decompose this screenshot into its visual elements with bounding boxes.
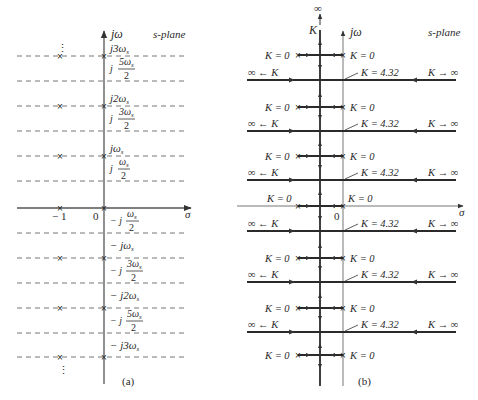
svg-text:j3ωs: j3ωs — [108, 42, 129, 56]
svg-text:×: × — [101, 303, 107, 314]
svg-text:K = 0: K = 0 — [347, 193, 373, 204]
svg-text:K → ∞: K → ∞ — [427, 319, 458, 330]
svg-text:×: × — [101, 352, 107, 363]
svg-text:×: × — [295, 350, 301, 361]
svg-text:K → ∞: K → ∞ — [427, 218, 458, 229]
panel-b: ×× ×× ×× ×× ×× ×× ×× ∞ K jω s-plane σ 0 … — [237, 2, 465, 388]
svg-text:∞ ← K: ∞ ← K — [248, 67, 279, 78]
svg-text:×: × — [295, 102, 301, 113]
svg-text:− j2ωs: − j2ωs — [110, 289, 140, 303]
svg-text:− jωs: − jωs — [110, 239, 134, 253]
svg-text:×: × — [101, 203, 107, 214]
svg-text:K = 4.32: K = 4.32 — [360, 218, 399, 229]
svg-text:5ωs: 5ωs — [127, 308, 142, 321]
svg-text:×: × — [101, 101, 107, 112]
svg-text:×: × — [340, 151, 346, 162]
svg-text:K = 0: K = 0 — [264, 303, 290, 314]
svg-text:K = 0: K = 0 — [266, 193, 292, 204]
svg-text:×: × — [340, 102, 346, 113]
svg-text:j: j — [108, 163, 113, 174]
svg-text:j2ωs: j2ωs — [108, 92, 129, 106]
svg-text:ωs: ωs — [119, 156, 129, 169]
svg-text:K = 0: K = 0 — [264, 350, 290, 361]
svg-text:− j: − j — [110, 215, 122, 226]
lower-freq-labels: − jωs − j2ωs − j3ωs — [110, 239, 140, 353]
svg-text:×: × — [101, 253, 107, 264]
upper-half-labels: j 5ωs 2 j 3ωs 2 j ωs 2 — [108, 56, 135, 181]
svg-text:K = 4.32: K = 4.32 — [360, 269, 399, 280]
real-axis-label: σ — [185, 208, 191, 220]
minus-one-label: − 1 — [52, 210, 66, 222]
ellipsis-bottom: ⋮ — [58, 364, 69, 376]
svg-text:K = 0: K = 0 — [349, 151, 375, 162]
svg-text:×: × — [295, 253, 301, 264]
svg-text:×: × — [57, 253, 63, 264]
caption-b: (b) — [358, 375, 371, 388]
svg-text:j: j — [108, 63, 113, 74]
svg-text:∞ ← K: ∞ ← K — [248, 218, 279, 229]
svg-text:2: 2 — [121, 170, 126, 181]
svg-text:∞ ← K: ∞ ← K — [248, 118, 279, 129]
svg-text:×: × — [101, 51, 107, 62]
svg-text:ωs: ωs — [127, 208, 137, 221]
svg-text:− j3ωs: − j3ωs — [110, 339, 140, 353]
svg-text:K = 4.32: K = 4.32 — [360, 118, 399, 129]
svg-text:− j: − j — [110, 265, 122, 276]
svg-text:×: × — [57, 101, 63, 112]
origin-label: 0 — [93, 210, 99, 222]
svg-text:K = 0: K = 0 — [264, 50, 290, 61]
caption-a: (a) — [122, 375, 135, 388]
svg-text:2: 2 — [129, 222, 134, 233]
svg-text:×: × — [57, 151, 63, 162]
plane-label: s-plane — [153, 28, 186, 40]
svg-text:×: × — [57, 303, 63, 314]
svg-text:K = 0: K = 0 — [264, 102, 290, 113]
imag-axis-label: jω — [348, 25, 362, 39]
svg-text:K = 0: K = 0 — [264, 253, 290, 264]
svg-text:2: 2 — [131, 272, 136, 283]
svg-text:×: × — [295, 50, 301, 61]
svg-text:3ωs: 3ωs — [126, 258, 142, 271]
real-axis-label: σ — [459, 206, 465, 218]
svg-text:×: × — [340, 50, 346, 61]
svg-text:K = 4.32: K = 4.32 — [360, 319, 399, 330]
svg-text:jωs: jωs — [108, 142, 124, 156]
svg-text:K = 0: K = 0 — [264, 151, 290, 162]
svg-text:5ωs: 5ωs — [119, 56, 134, 69]
svg-text:2: 2 — [131, 322, 136, 333]
svg-text:∞ ← K: ∞ ← K — [248, 319, 279, 330]
svg-text:K = 0: K = 0 — [349, 50, 375, 61]
lower-half-labels: − j ωs 2 − j 3ωs 2 − j 5ωs 2 — [110, 208, 143, 333]
svg-text:j: j — [108, 113, 113, 124]
svg-text:×: × — [57, 352, 63, 363]
svg-text:− j: − j — [110, 315, 122, 326]
svg-text:K = 0: K = 0 — [349, 253, 375, 264]
svg-text:K = 0: K = 0 — [349, 102, 375, 113]
infinity-top: ∞ — [314, 2, 322, 14]
pole-markers: ×× ×× ×× ×× ×× ×× ×× — [57, 51, 107, 363]
svg-text:∞ ← K: ∞ ← K — [248, 167, 279, 178]
svg-text:×: × — [340, 350, 346, 361]
svg-text:K = 4.32: K = 4.32 — [360, 167, 399, 178]
svg-text:×: × — [340, 303, 346, 314]
svg-text:3ωs: 3ωs — [118, 106, 134, 119]
svg-text:×: × — [101, 151, 107, 162]
plane-label: s-plane — [428, 26, 461, 38]
svg-text:×: × — [295, 303, 301, 314]
panel-a: ×× ×× ×× ×× ×× ×× ×× ⋮ ⋮ jω s-plane σ 0 … — [17, 27, 191, 388]
svg-text:×: × — [295, 151, 301, 162]
svg-text:×: × — [340, 253, 346, 264]
imag-axis-label: jω — [109, 27, 123, 41]
sampled-root-locus-figure: ×× ×× ×× ×× ×× ×× ×× ⋮ ⋮ jω s-plane σ 0 … — [0, 0, 478, 400]
svg-text:∞ ← K: ∞ ← K — [248, 269, 279, 280]
svg-text:K = 0: K = 0 — [349, 350, 375, 361]
ellipsis-top: ⋮ — [57, 42, 68, 54]
origin-label: 0 — [334, 210, 340, 222]
svg-text:×: × — [340, 201, 346, 212]
svg-text:K → ∞: K → ∞ — [427, 269, 458, 280]
svg-text:2: 2 — [124, 120, 129, 131]
svg-text:×: × — [295, 201, 301, 212]
svg-text:K = 4.32: K = 4.32 — [360, 67, 399, 78]
svg-text:2: 2 — [124, 70, 129, 81]
svg-text:K → ∞: K → ∞ — [427, 118, 458, 129]
